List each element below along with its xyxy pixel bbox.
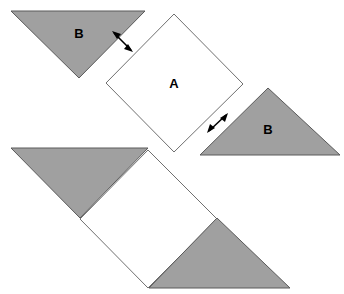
label-square-a: A: [169, 76, 179, 91]
gap-arrow-right-head-upper: [220, 113, 228, 122]
diagram-canvas: A B B: [0, 0, 344, 294]
dissection-figure: A B B: [0, 0, 344, 294]
gap-arrow-right-head-lower: [207, 124, 215, 133]
label-triangle-b-right: B: [263, 122, 272, 137]
label-triangle-b-top-left: B: [74, 26, 83, 41]
